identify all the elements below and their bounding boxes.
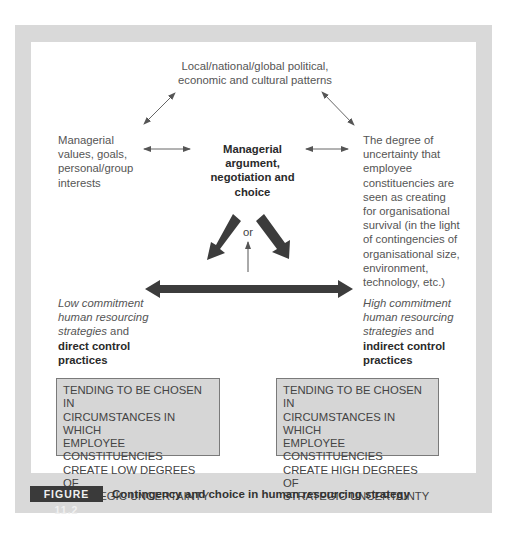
top-node: Local/national/global political, economi… [140,59,370,87]
thick-arrow-down-left [207,214,241,260]
center-node: Managerial argument, negotiation and cho… [195,142,310,199]
left-outcome: Low commitment human resourcing strategi… [58,296,168,367]
figure-caption: Contingency and choice in human resourci… [112,487,410,501]
double-arrow-top-right [322,92,354,125]
right-condition-box: TENDING TO BE CHOSEN IN CIRCUMSTANCES IN… [276,378,439,456]
figure-label: FIGURE 11.2 [30,486,103,502]
or-label: or [243,225,253,239]
double-arrow-top-left [144,93,175,124]
left-node: Managerial values, goals, personal/group… [58,133,148,190]
thick-arrow-down-right [256,214,290,259]
right-outcome: High commitment human resourcing strateg… [363,296,473,367]
left-condition-box: TENDING TO BE CHOSEN IN CIRCUMSTANCES IN… [56,378,220,456]
thick-double-arrow-horizontal [145,280,353,298]
right-node: The degree of uncertainty that employee … [363,133,473,289]
